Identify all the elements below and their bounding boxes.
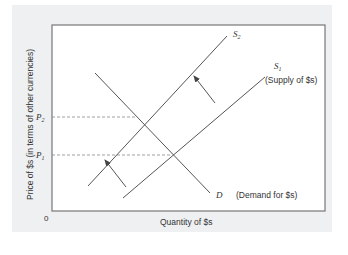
p1-label: P1 — [35, 150, 45, 161]
d-label: D — [215, 190, 223, 200]
supply-demand-diagram: Price of $s (in terms of other currencie… — [0, 0, 348, 255]
y-axis-label: Price of $s (in terms of other currencie… — [25, 49, 35, 200]
plot-area — [52, 25, 325, 211]
demand-description: (Demand for $s) — [236, 190, 298, 200]
supply-description: (Supply of $s) — [265, 75, 318, 85]
origin-label: 0 — [44, 214, 49, 223]
x-axis-label: Quantity of $s — [160, 217, 212, 227]
p2-label: P2 — [35, 112, 45, 123]
